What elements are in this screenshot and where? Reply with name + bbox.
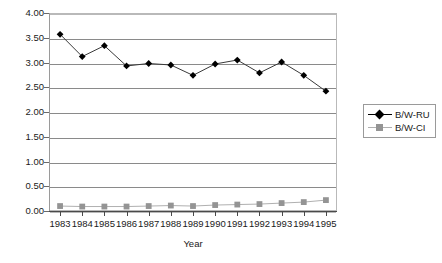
data-point-marker <box>300 72 307 79</box>
y-axis-tick-mark <box>44 211 49 212</box>
data-point-marker <box>79 204 85 210</box>
data-point-marker <box>167 62 174 69</box>
data-point-marker <box>278 59 285 66</box>
x-axis-tick-mark <box>171 212 172 216</box>
series-layer <box>49 13 337 211</box>
x-axis-tick-mark <box>215 212 216 216</box>
y-axis-tick-mark <box>44 162 49 163</box>
data-point-marker <box>323 197 329 203</box>
y-axis-tick-label: 0.50 <box>2 181 44 191</box>
legend-entry-bw-ru[interactable]: B/W-RU <box>367 108 430 121</box>
chart-figure: 0.000.501.001.502.002.503.003.504.00 Yea… <box>0 0 442 263</box>
data-point-marker <box>101 204 107 210</box>
x-axis-tick-mark <box>104 212 105 216</box>
data-point-marker <box>257 201 263 207</box>
data-point-marker <box>234 57 241 64</box>
y-axis-tick-label: 2.50 <box>2 82 44 92</box>
x-axis-tick-mark <box>60 212 61 216</box>
y-axis-tick-label: 3.00 <box>2 58 44 68</box>
y-axis-tick-mark <box>44 87 49 88</box>
y-axis-tick-label: 0.00 <box>2 206 44 216</box>
diamond-marker-icon <box>367 109 393 121</box>
y-axis-tick-mark <box>44 137 49 138</box>
x-axis-tick-mark <box>82 212 83 216</box>
y-axis-tick-label: 1.50 <box>2 132 44 142</box>
chart-legend: B/W-RU B/W-CI <box>363 104 436 138</box>
data-point-marker <box>168 203 174 209</box>
legend-entry-bw-ci[interactable]: B/W-CI <box>367 121 430 134</box>
data-point-marker <box>323 88 330 95</box>
y-axis-tick-mark <box>44 186 49 187</box>
square-marker-icon <box>367 122 393 134</box>
x-axis-title: Year <box>49 238 337 249</box>
y-axis-tick-mark <box>44 13 49 14</box>
data-point-marker <box>145 60 152 67</box>
y-axis-tick-labels: 0.000.501.001.502.002.503.003.504.00 <box>0 0 44 263</box>
series-line-b-w-ru <box>60 34 326 91</box>
y-axis-tick-label: 3.50 <box>2 33 44 43</box>
y-axis-tick-label: 4.00 <box>2 8 44 18</box>
x-axis-tick-mark <box>193 212 194 216</box>
data-point-marker <box>190 203 196 209</box>
data-point-marker <box>124 204 130 210</box>
data-point-marker <box>212 202 218 208</box>
data-point-marker <box>279 200 285 206</box>
data-point-marker <box>146 203 152 209</box>
legend-label-bw-ci: B/W-CI <box>393 122 425 133</box>
data-point-marker <box>234 202 240 208</box>
y-axis-tick-label: 1.00 <box>2 157 44 167</box>
y-axis-tick-mark <box>44 38 49 39</box>
x-axis-tick-mark <box>237 212 238 216</box>
x-axis-tick-mark <box>304 212 305 216</box>
y-axis-tick-mark <box>44 112 49 113</box>
x-axis-tick-mark <box>259 212 260 216</box>
x-axis-tick-mark <box>282 212 283 216</box>
data-point-marker <box>256 69 263 76</box>
y-axis-tick-label: 2.00 <box>2 107 44 117</box>
x-axis-tick-mark <box>326 212 327 216</box>
data-point-marker <box>57 203 63 209</box>
legend-label-bw-ru: B/W-RU <box>393 109 430 120</box>
x-axis-tick-label: 1995 <box>306 218 346 229</box>
data-point-marker <box>301 199 307 205</box>
y-axis-tick-mark <box>44 63 49 64</box>
x-axis-tick-mark <box>127 212 128 216</box>
data-point-marker <box>212 61 219 68</box>
x-axis-tick-mark <box>149 212 150 216</box>
data-point-marker <box>190 72 197 79</box>
